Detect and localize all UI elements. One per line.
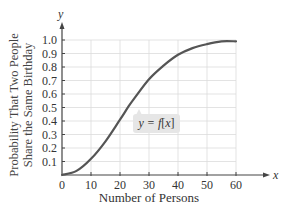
y-tick-label: 0.8	[42, 60, 57, 74]
y-axis-symbol: y	[57, 7, 64, 21]
y-tick-label: 0.3	[42, 128, 57, 142]
x-tick-label: 0	[59, 178, 65, 192]
x-axis-symbol: x	[272, 168, 279, 182]
y-tick-label: 0.5	[42, 101, 57, 115]
x-tick-label: 10	[85, 178, 97, 192]
y-tick-label: 0.7	[42, 74, 57, 88]
y-tick-label: 0.6	[42, 87, 57, 101]
y-axis-label-container: Probability That Two People Share the Sa…	[0, 30, 42, 180]
y-axis-arrow-icon	[60, 22, 65, 29]
y-tick-label: 0.4	[42, 114, 57, 128]
function-label-prefix: y =	[138, 116, 157, 130]
y-axis-label-line-2: Share the Same Birthday	[21, 33, 35, 176]
y-tick-label: 1.0	[42, 33, 57, 47]
y-tick-label: 0.2	[42, 141, 57, 155]
x-tick-label: 60	[230, 178, 242, 192]
y-axis-label-line-1: Probability That Two People	[7, 33, 21, 176]
tick-labels: 01020304050600.10.20.30.40.50.60.70.80.9…	[42, 33, 242, 192]
x-axis-arrow-icon	[263, 173, 270, 178]
grid-lines	[62, 40, 236, 175]
chart-canvas: 01020304050600.10.20.30.40.50.60.70.80.9…	[0, 0, 281, 212]
y-tick-label: 0.1	[42, 155, 57, 169]
x-tick-label: 50	[201, 178, 213, 192]
x-axis-label: Number of Persons	[99, 190, 199, 206]
y-tick-label: 0.9	[42, 47, 57, 61]
y-axis-label: Probability That Two People Share the Sa…	[7, 33, 35, 176]
function-label-close-bracket: ]	[171, 116, 175, 130]
function-label: y = f[x]	[133, 114, 180, 133]
